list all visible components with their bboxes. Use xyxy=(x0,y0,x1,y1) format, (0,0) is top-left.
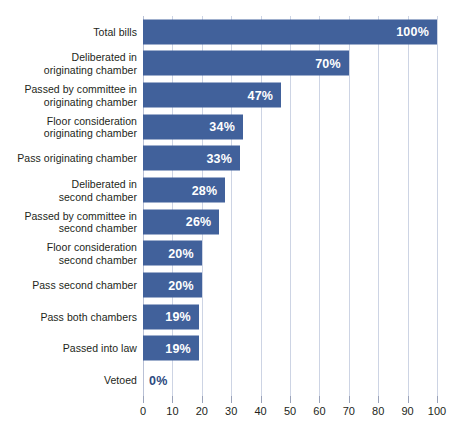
x-tick-mark xyxy=(378,396,379,403)
bar-track: 100% xyxy=(143,19,437,44)
bar-value-label: 70% xyxy=(315,56,341,70)
x-tick-mark xyxy=(202,396,203,403)
bar-track: 34% xyxy=(143,114,437,139)
category-label: Deliberated in second chamber xyxy=(1,178,137,203)
category-label: Total bills xyxy=(1,26,137,39)
bar-track: 70% xyxy=(143,51,437,76)
bar-rows: Total bills100%Deliberated in originatin… xyxy=(0,16,461,396)
bar-row[interactable]: Passed by committee in second chamber26% xyxy=(0,206,461,238)
bar-row[interactable]: Passed by committee in originating chamb… xyxy=(0,79,461,111)
bar-value-label: 34% xyxy=(209,120,235,134)
bar-row[interactable]: Pass originating chamber33% xyxy=(0,143,461,175)
x-tick-mark xyxy=(290,396,291,403)
bar-track: 20% xyxy=(143,241,437,266)
bar-track: 0% xyxy=(143,368,437,393)
bar-chart: Total bills100%Deliberated in originatin… xyxy=(0,0,461,446)
x-tick-label: 30 xyxy=(225,405,237,417)
x-tick-mark xyxy=(349,396,350,403)
bar-row[interactable]: Deliberated in originating chamber70% xyxy=(0,48,461,80)
bar-value-label: 20% xyxy=(168,246,194,260)
bar-track: 28% xyxy=(143,178,437,203)
x-tick-label: 40 xyxy=(254,405,266,417)
bar-track: 20% xyxy=(143,273,437,298)
bar-row[interactable]: Deliberated in second chamber28% xyxy=(0,174,461,206)
x-tick-mark xyxy=(319,396,320,403)
x-tick-mark xyxy=(231,396,232,403)
category-label: Pass second chamber xyxy=(1,279,137,292)
bar-track: 47% xyxy=(143,83,437,108)
bar-track: 26% xyxy=(143,209,437,234)
category-label: Floor consideration second chamber xyxy=(1,241,137,266)
x-tick-mark xyxy=(143,396,144,403)
x-axis: 0102030405060708090100 xyxy=(143,396,437,426)
bar-row[interactable]: Total bills100% xyxy=(0,16,461,48)
bar-value-label: 0% xyxy=(149,373,167,387)
x-tick-label: 20 xyxy=(196,405,208,417)
bar-value-label: 19% xyxy=(165,310,191,324)
x-tick-label: 70 xyxy=(343,405,355,417)
bar-row[interactable]: Pass both chambers19% xyxy=(0,301,461,333)
bar-row[interactable]: Floor consideration second chamber20% xyxy=(0,238,461,270)
bar-value-label: 47% xyxy=(248,88,274,102)
x-tick-label: 90 xyxy=(401,405,413,417)
bar-track: 19% xyxy=(143,336,437,361)
x-tick-label: 0 xyxy=(140,405,146,417)
x-tick-mark xyxy=(261,396,262,403)
category-label: Pass originating chamber xyxy=(1,152,137,165)
bar-value-label: 33% xyxy=(206,151,232,165)
category-label: Floor consideration originating chamber xyxy=(1,114,137,139)
category-label: Passed by committee in second chamber xyxy=(1,209,137,234)
x-tick-mark xyxy=(408,396,409,403)
x-tick-mark xyxy=(172,396,173,403)
x-tick-label: 80 xyxy=(372,405,384,417)
x-tick-label: 10 xyxy=(166,405,178,417)
bar-row[interactable]: Passed into law19% xyxy=(0,333,461,365)
bar-value-label: 20% xyxy=(168,278,194,292)
bar-track: 19% xyxy=(143,304,437,329)
bar-value-label: 28% xyxy=(192,183,218,197)
bar-value-label: 19% xyxy=(165,341,191,355)
bar-track: 33% xyxy=(143,146,437,171)
category-label: Passed by committee in originating chamb… xyxy=(1,83,137,108)
category-label: Vetoed xyxy=(1,374,137,387)
x-tick-label: 50 xyxy=(284,405,296,417)
bar-row[interactable]: Floor consideration originating chamber3… xyxy=(0,111,461,143)
bar-row[interactable]: Vetoed0% xyxy=(0,364,461,396)
bar[interactable] xyxy=(143,19,437,44)
bar-row[interactable]: Pass second chamber20% xyxy=(0,269,461,301)
x-tick-label: 60 xyxy=(313,405,325,417)
bar-value-label: 100% xyxy=(396,25,429,39)
x-tick-mark xyxy=(437,396,438,403)
category-label: Passed into law xyxy=(1,342,137,355)
category-label: Deliberated in originating chamber xyxy=(1,51,137,76)
bar-value-label: 26% xyxy=(186,215,212,229)
x-tick-label: 100 xyxy=(428,405,446,417)
category-label: Pass both chambers xyxy=(1,310,137,323)
